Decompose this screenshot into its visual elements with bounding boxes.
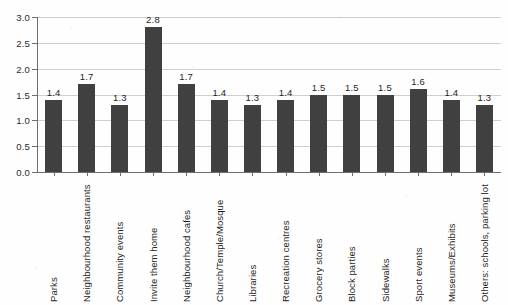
x-axis-tick-label-slot: Parks xyxy=(44,180,64,302)
x-axis-tick-label: Recreation centres xyxy=(280,180,291,302)
x-axis-line xyxy=(37,172,501,173)
gridline xyxy=(37,17,501,18)
bar xyxy=(178,84,195,172)
bar xyxy=(45,100,62,172)
x-axis-tick-label: Neighbourhood restaurants xyxy=(81,180,92,302)
x-axis-tick-label: Sidewalks xyxy=(380,180,391,302)
bar xyxy=(211,100,228,172)
bar xyxy=(476,105,493,172)
bar-chart: 3.02.52.01.51.00.50.0 1.4Parks1.7Neighbo… xyxy=(0,0,508,305)
y-axis-tick-label: 1.5 xyxy=(16,89,30,100)
y-axis-tick-label: 0.5 xyxy=(16,141,30,152)
bar xyxy=(145,27,162,172)
x-axis-tick-mark xyxy=(352,172,353,176)
x-axis-tick-label: Invite them home xyxy=(148,180,159,302)
x-axis-tick-label-slot: Others: schools, parking lot xyxy=(474,180,494,302)
bar-value-label: 1.3 xyxy=(478,92,492,103)
x-axis-tick-label-slot: Block parties xyxy=(342,180,362,302)
x-axis-tick-label-slot: Sidewalks xyxy=(375,180,395,302)
x-axis-tick-label: Museums/Exhibits xyxy=(446,180,457,302)
x-axis-tick-mark xyxy=(319,172,320,176)
y-axis-tick-label: 2.0 xyxy=(16,63,30,74)
x-axis-tick-label-slot: Neighbourhood cafes xyxy=(176,180,196,302)
bar-value-label: 1.7 xyxy=(179,71,193,82)
x-axis-tick-label: Church/Temple/Mosque xyxy=(214,180,225,302)
x-axis-tick-label-slot: Community events xyxy=(110,180,130,302)
y-axis-tick-label: 0.0 xyxy=(16,167,30,178)
bar-value-label: 1.6 xyxy=(411,76,425,87)
x-axis-tick-label-slot: Sport events xyxy=(408,180,428,302)
x-axis-tick-label-slot: Museums/Exhibits xyxy=(441,180,461,302)
x-axis-tick-label-slot: Neighbourhood restaurants xyxy=(77,180,97,302)
bar xyxy=(277,100,294,172)
y-axis-line xyxy=(37,17,38,173)
bar xyxy=(244,105,261,172)
gridline xyxy=(37,120,501,121)
y-axis-tick-label: 2.5 xyxy=(16,37,30,48)
x-axis-tick-label: Community events xyxy=(114,180,125,302)
x-axis-tick-mark xyxy=(484,172,485,176)
bar xyxy=(443,100,460,172)
bar-value-label: 1.4 xyxy=(444,87,458,98)
bar xyxy=(410,89,427,172)
x-axis-tick-mark xyxy=(186,172,187,176)
gridline xyxy=(37,95,501,96)
x-axis-tick-mark xyxy=(120,172,121,176)
x-axis-tick-label: Parks xyxy=(48,180,59,302)
x-axis-tick-mark xyxy=(451,172,452,176)
x-axis-tick-mark xyxy=(385,172,386,176)
x-axis-tick-mark xyxy=(87,172,88,176)
bar-value-label: 2.8 xyxy=(146,14,160,25)
bar-value-label: 1.5 xyxy=(312,82,326,93)
x-axis-tick-mark xyxy=(219,172,220,176)
bar-value-label: 1.4 xyxy=(279,87,293,98)
x-axis-tick-mark xyxy=(153,172,154,176)
y-axis-tick-labels: 3.02.52.01.51.00.50.0 xyxy=(0,0,30,305)
bar-value-label: 1.3 xyxy=(246,92,260,103)
x-axis-tick-label: Libraries xyxy=(247,180,258,302)
bar-value-label: 1.5 xyxy=(345,82,359,93)
x-axis-tick-label-slot: Grocery stores xyxy=(309,180,329,302)
bar-value-label: 1.4 xyxy=(47,87,61,98)
x-axis-tick-label: Neighbourhood cafes xyxy=(181,180,192,302)
plot-area xyxy=(37,17,501,172)
x-axis-tick-mark xyxy=(418,172,419,176)
bar xyxy=(78,84,95,172)
x-axis-tick-mark xyxy=(252,172,253,176)
bar-value-label: 1.4 xyxy=(212,87,226,98)
bar xyxy=(343,95,360,173)
bar-value-label: 1.3 xyxy=(113,92,127,103)
y-axis-tick-label: 3.0 xyxy=(16,12,30,23)
x-axis-tick-label-slot: Invite them home xyxy=(143,180,163,302)
x-axis-tick-label-slot: Church/Temple/Mosque xyxy=(209,180,229,302)
bar-value-label: 1.7 xyxy=(80,71,94,82)
y-axis-tick-label: 1.0 xyxy=(16,115,30,126)
x-axis-tick-label-slot: Libraries xyxy=(242,180,262,302)
gridline xyxy=(37,146,501,147)
bar xyxy=(377,95,394,173)
gridline xyxy=(37,69,501,70)
x-axis-tick-label: Block parties xyxy=(346,180,357,302)
bar xyxy=(111,105,128,172)
x-axis-tick-label: Others: schools, parking lot xyxy=(479,180,490,302)
x-axis-tick-label: Grocery stores xyxy=(313,180,324,302)
bar xyxy=(310,95,327,173)
x-axis-tick-mark xyxy=(286,172,287,176)
x-axis-tick-mark xyxy=(54,172,55,176)
x-axis-tick-label-slot: Recreation centres xyxy=(276,180,296,302)
x-axis-tick-label: Sport events xyxy=(413,180,424,302)
gridline xyxy=(37,43,501,44)
bar-value-label: 1.5 xyxy=(378,82,392,93)
